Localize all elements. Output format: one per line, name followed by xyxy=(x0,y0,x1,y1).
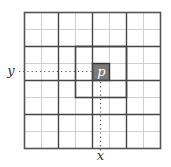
x-axis-label: x xyxy=(97,148,105,163)
pixel-neighborhood-diagram: p y x xyxy=(0,0,171,167)
major-grid-lines xyxy=(24,12,160,148)
y-axis-label: y xyxy=(6,63,15,78)
pixel-label-p: p xyxy=(97,64,106,79)
